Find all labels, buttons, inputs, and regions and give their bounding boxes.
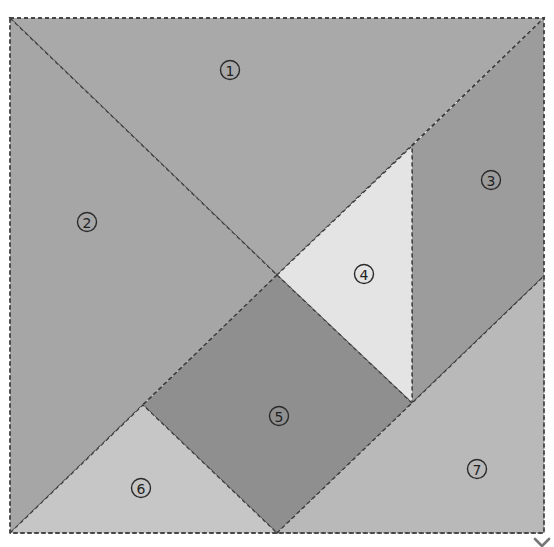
chevron-down-icon[interactable] xyxy=(535,539,549,546)
tangram-diagram: 1234567 xyxy=(0,0,554,547)
label-number: 1 xyxy=(226,63,235,79)
tangram-pieces xyxy=(10,18,544,533)
label-number: 2 xyxy=(83,215,92,231)
label-number: 6 xyxy=(137,481,146,497)
label-number: 7 xyxy=(473,462,482,478)
label-number: 4 xyxy=(360,267,369,283)
label-number: 3 xyxy=(487,173,496,189)
label-number: 5 xyxy=(275,409,284,425)
